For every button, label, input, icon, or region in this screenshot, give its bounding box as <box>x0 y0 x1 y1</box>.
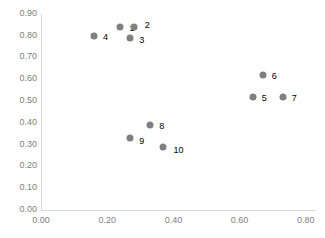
data-point <box>249 93 256 100</box>
data-point <box>279 93 286 100</box>
data-point-label: 10 <box>173 145 183 155</box>
data-point <box>117 23 124 30</box>
data-point-label: 7 <box>292 93 297 103</box>
data-point <box>160 143 167 150</box>
data-point-label: 2 <box>145 20 150 30</box>
x-axis-tick-label: 0.80 <box>297 215 315 225</box>
data-point <box>147 121 154 128</box>
data-point-label: 4 <box>103 32 108 42</box>
data-point <box>127 135 134 142</box>
plot-area <box>41 14 316 210</box>
scatter-chart: 0.000.100.200.300.400.500.600.700.800.90… <box>0 0 325 238</box>
data-point <box>259 71 266 78</box>
x-axis-tick-label: 0.40 <box>165 215 183 225</box>
data-point <box>130 23 137 30</box>
data-point-label: 9 <box>139 136 144 146</box>
data-point-label: 6 <box>272 71 277 81</box>
data-point-label: 5 <box>262 93 267 103</box>
data-point-label: 3 <box>139 35 144 45</box>
data-point-label: 8 <box>159 121 164 131</box>
x-axis-tick-label: 0.60 <box>231 215 249 225</box>
data-point <box>127 34 134 41</box>
data-point <box>90 32 97 39</box>
x-axis-tick-label: 0.00 <box>32 215 50 225</box>
x-axis-tick-label: 0.20 <box>98 215 116 225</box>
